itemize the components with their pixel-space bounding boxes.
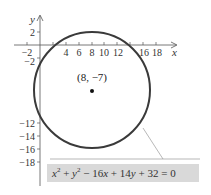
x-axis-label: x bbox=[171, 46, 177, 58]
y-axis-label: y bbox=[29, 13, 35, 25]
x-tick-label: 6 bbox=[77, 47, 82, 58]
x-tick-label: 4 bbox=[64, 47, 69, 58]
y-tick-label: −12 bbox=[19, 118, 35, 129]
leader-line bbox=[143, 128, 163, 159]
x-tick-label: 8 bbox=[90, 47, 95, 58]
center-point bbox=[90, 89, 94, 93]
y-tick-label: −16 bbox=[19, 144, 35, 155]
y-tick-label: −2 bbox=[24, 56, 35, 67]
y-tick-label: −18 bbox=[19, 157, 35, 168]
x-tick-label: 16 bbox=[139, 47, 149, 58]
equation-text: x2 + y2 − 16x + 14y + 32 = 0 bbox=[52, 166, 176, 179]
y-tick-label: −14 bbox=[19, 131, 35, 142]
x-tick-label: 10 bbox=[99, 47, 109, 58]
center-point-label: (8, −7) bbox=[77, 71, 107, 83]
x-tick-label: 18 bbox=[152, 47, 162, 58]
x-tick-label: 12 bbox=[113, 47, 123, 58]
y-tick-label: 2 bbox=[30, 27, 35, 38]
y-axis bbox=[37, 15, 43, 186]
